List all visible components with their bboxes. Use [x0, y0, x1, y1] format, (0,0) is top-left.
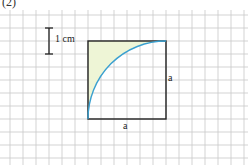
grid-paper	[0, 10, 248, 165]
scale-label: 1 cm	[55, 34, 75, 44]
part-label: (2)	[2, 0, 16, 8]
side-bottom-label: a	[123, 121, 127, 131]
side-right-label: a	[168, 73, 172, 83]
geometry-figure	[0, 0, 248, 165]
